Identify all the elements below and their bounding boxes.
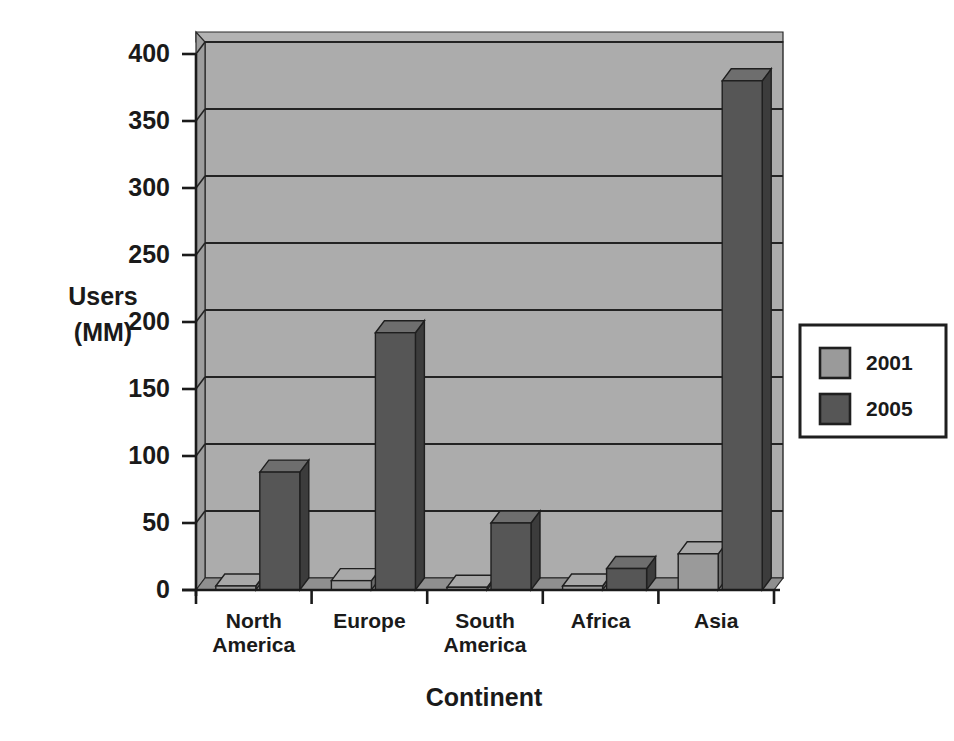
bar-front-face (260, 472, 300, 590)
legend: 20012005 (800, 325, 946, 437)
legend-swatch-2001 (820, 348, 850, 378)
bar-2001-europe (331, 569, 380, 590)
plot-wall-top (196, 32, 783, 42)
bar-side-face (300, 460, 309, 590)
bar-2001-south-america (447, 575, 496, 590)
bar-top-face (331, 569, 380, 581)
bar-front-face (607, 569, 647, 590)
y-axis-tick-label: 50 (142, 508, 170, 536)
bar-top-face (491, 511, 540, 523)
bar-side-face (415, 321, 424, 590)
category-label: America (212, 633, 295, 656)
bar-side-face (531, 511, 540, 590)
bar-2001-africa (563, 574, 612, 590)
bar-top-face (260, 460, 309, 472)
y-axis-tick-label: 100 (128, 441, 170, 469)
bar-2005-asia (722, 69, 771, 590)
y-axis-tick-label: 200 (128, 307, 170, 335)
y-axis-tick-label: 400 (128, 39, 170, 67)
x-axis-title: Continent (426, 683, 543, 711)
y-axis-tick-label: 0 (156, 575, 170, 603)
y-axis-tick-label: 250 (128, 240, 170, 268)
category-label: Europe (333, 609, 405, 632)
bar-2005-africa (607, 557, 656, 590)
bar-2005-south-america (491, 511, 540, 590)
legend-label-2001: 2001 (866, 351, 913, 374)
bar-top-face (375, 321, 424, 333)
bar-chart-figure: 050100150200250300350400 NorthAmericaEur… (0, 0, 954, 741)
bar-top-face (447, 575, 496, 587)
chart-canvas: 050100150200250300350400 NorthAmericaEur… (0, 0, 954, 741)
bar-side-face (762, 69, 771, 590)
y-axis-title-line2: (MM) (74, 318, 132, 346)
category-label: Africa (571, 609, 631, 632)
bar-top-face (607, 557, 656, 569)
category-label: Asia (694, 609, 739, 632)
legend-label-2005: 2005 (866, 397, 913, 420)
bar-2005-north-america (260, 460, 309, 590)
bar-top-face (722, 69, 771, 81)
bar-front-face (491, 523, 531, 590)
bar-2001-asia (678, 542, 727, 590)
y-axis-tick-label: 300 (128, 173, 170, 201)
bar-front-face (375, 333, 415, 590)
y-axis-tick-label: 350 (128, 106, 170, 134)
y-axis-tick-label: 150 (128, 374, 170, 402)
bar-top-face (678, 542, 727, 554)
bar-2005-europe (375, 321, 424, 590)
bar-top-face (563, 574, 612, 586)
bar-front-face (678, 554, 718, 590)
category-label: South (455, 609, 514, 632)
category-label: America (444, 633, 527, 656)
bar-front-face (331, 581, 371, 590)
bar-front-face (722, 81, 762, 590)
y-axis-title-line1: Users (68, 282, 138, 310)
category-label: North (226, 609, 282, 632)
bar-top-face (216, 574, 265, 586)
bar-2001-north-america (216, 574, 265, 590)
legend-swatch-2005 (820, 394, 850, 424)
